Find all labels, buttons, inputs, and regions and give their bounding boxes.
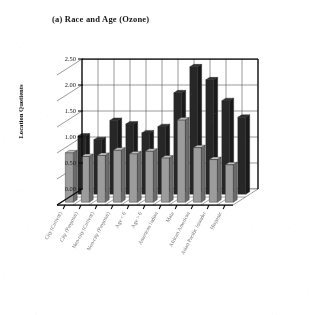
bar-0-2 bbox=[97, 153, 109, 202]
bar-1-10 bbox=[238, 115, 250, 194]
y-tick-label: 0.00 bbox=[65, 185, 76, 192]
bar-0-0 bbox=[65, 150, 77, 202]
x-axis-ticks: City (Current)City (Proposal)Non-city (C… bbox=[43, 205, 225, 256]
y-tick-label: 1.00 bbox=[65, 133, 76, 140]
x-tick-label: Age < 6 bbox=[113, 210, 127, 228]
figure-canvas: (a) Race and Age (Ozone) Location Quotie… bbox=[0, 0, 320, 315]
bar-0-1 bbox=[81, 154, 93, 202]
y-tick-label: 0.50 bbox=[65, 159, 76, 166]
x-tick-label: Hispanic bbox=[209, 210, 224, 230]
bar-0-8 bbox=[193, 145, 205, 202]
bar-0-9 bbox=[209, 157, 221, 202]
bar-0-4 bbox=[129, 151, 141, 202]
bar-0-5 bbox=[145, 149, 157, 202]
bar-0-10 bbox=[225, 162, 237, 202]
y-tick-label: 2.00 bbox=[65, 81, 76, 88]
bar-0-3 bbox=[113, 148, 125, 202]
bar-0-6 bbox=[161, 156, 173, 203]
x-tick-label: Age > 6 bbox=[129, 210, 143, 228]
bar-chart-3d: 0.000.501.001.502.002.50 City (Current)C… bbox=[0, 0, 320, 315]
y-tick-label: 1.50 bbox=[65, 107, 76, 114]
x-tick-label: Male bbox=[164, 210, 175, 223]
bar-0-7 bbox=[177, 118, 189, 203]
